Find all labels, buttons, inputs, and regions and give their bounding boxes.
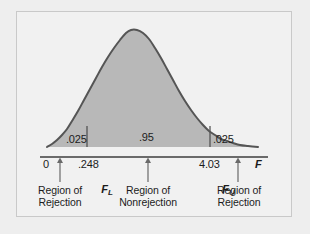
pointer-arrow-nonrejection xyxy=(145,158,151,183)
caption-left-rejection-line1: Region of xyxy=(20,184,100,196)
caption-nonrejection: Region of Nonrejection xyxy=(104,184,192,209)
caption-right-rejection: Region of Rejection xyxy=(199,184,279,209)
caption-right-rejection-line2: Rejection xyxy=(199,196,279,208)
distribution-fill-area xyxy=(47,30,258,147)
pointer-arrow-right-rejection xyxy=(235,158,241,183)
caption-right-rejection-line1: Region of xyxy=(199,184,279,196)
tick-label-upper-critical: 4.03 xyxy=(199,159,220,171)
caption-nonrejection-line2: Nonrejection xyxy=(104,196,192,208)
area-label-right-tail: .025 xyxy=(213,134,234,146)
pointer-arrow-left-rejection xyxy=(57,158,63,183)
caption-nonrejection-line1: Region of xyxy=(104,184,192,196)
area-label-left-tail: .025 xyxy=(66,134,87,146)
figure-root: .025 .95 .025 0 .248 4.03 F FL FU Region… xyxy=(0,0,310,234)
x-axis-label: F xyxy=(255,159,262,171)
tick-label-lower-critical: .248 xyxy=(78,159,99,171)
area-label-nonrejection: .95 xyxy=(139,132,154,144)
tick-label-zero: 0 xyxy=(43,159,49,171)
caption-left-rejection: Region of Rejection xyxy=(20,184,100,209)
chart-surface: .025 .95 .025 0 .248 4.03 F FL FU Region… xyxy=(0,0,310,234)
caption-left-rejection-line2: Rejection xyxy=(20,196,100,208)
